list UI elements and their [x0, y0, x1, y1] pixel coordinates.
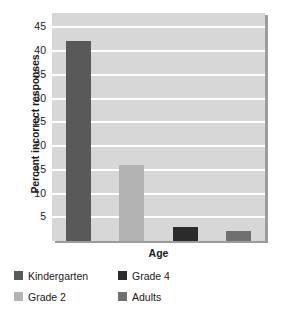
legend-swatch-icon [118, 271, 127, 280]
legend-item-adults[interactable]: Adults [118, 291, 161, 303]
legend-item-grade-4[interactable]: Grade 4 [118, 270, 170, 282]
plot-area [52, 13, 265, 241]
legend-item-grade-2[interactable]: Grade 2 [14, 291, 118, 303]
legend-row: Grade 2Adults [14, 286, 244, 307]
legend-label: Grade 4 [132, 270, 170, 282]
bar-chart-figure: Percent incorrect responses 510152025303… [0, 0, 294, 315]
bar-grade-2 [119, 165, 144, 241]
bar-adults [226, 231, 251, 241]
x-axis-title: Age [52, 247, 265, 259]
legend-label: Kindergarten [28, 270, 88, 282]
gridline [52, 26, 265, 28]
legend-swatch-icon [14, 292, 23, 301]
legend-swatch-icon [118, 292, 127, 301]
chart-legend: KindergartenGrade 4Grade 2Adults [14, 265, 244, 307]
bar-kindergarten [66, 41, 91, 241]
legend-label: Adults [132, 291, 161, 303]
legend-label: Grade 2 [28, 291, 66, 303]
bar-grade-4 [173, 227, 198, 241]
y-axis-title: Percent incorrect responses [29, 14, 41, 234]
legend-row: KindergartenGrade 4 [14, 265, 244, 286]
legend-item-kindergarten[interactable]: Kindergarten [14, 270, 118, 282]
legend-swatch-icon [14, 271, 23, 280]
